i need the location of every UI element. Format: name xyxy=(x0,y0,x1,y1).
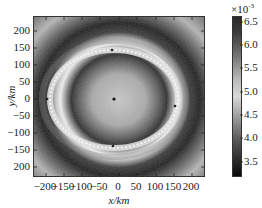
colorbar-tick-label: 3.5 xyxy=(244,156,258,167)
y-axis-title: y/km xyxy=(5,81,17,111)
marker-bottom xyxy=(112,145,115,148)
marker-left xyxy=(46,98,49,101)
marker-right xyxy=(174,105,177,108)
colorbar-tick-label: 4.5 xyxy=(244,109,258,120)
colorbar-tick-label: 6.5 xyxy=(244,16,258,27)
colorbar-exponent-value: -3 xyxy=(248,2,254,10)
heatmap-image xyxy=(34,17,204,176)
colorbar-tick-label: 4.0 xyxy=(244,132,258,143)
y-tick-label: 100 xyxy=(2,59,30,70)
y-tick-label: 150 xyxy=(2,42,30,53)
colorbar-multiplier: ×10 xyxy=(231,3,248,15)
y-tick-label: 200 xyxy=(2,25,30,36)
y-tick-label: −150 xyxy=(2,144,30,155)
y-tick-label: 200 xyxy=(2,161,30,172)
heatmap-plot-area xyxy=(33,16,205,177)
colorbar-exponent: ×10-3 xyxy=(231,2,254,15)
y-tick-label: −100 xyxy=(2,127,30,138)
y-tick-label: −50 xyxy=(2,110,30,121)
colorbar-tick-label: 5.0 xyxy=(244,86,258,97)
marker-top xyxy=(111,49,114,52)
colorbar-tick-label: 5.5 xyxy=(244,62,258,73)
colorbar-tick-label: 6.0 xyxy=(244,39,258,50)
x-axis-title: x/km xyxy=(104,194,134,206)
marker-center xyxy=(112,97,115,100)
x-tick-label: 200 xyxy=(176,181,206,192)
